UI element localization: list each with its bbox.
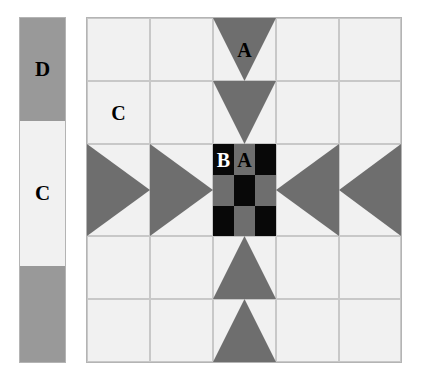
legend-label-c: C	[35, 183, 50, 204]
piece-label-a-center: A	[234, 144, 255, 175]
block-unit-r1c3-flying-geese-down: A	[213, 18, 276, 81]
nine-patch-cell-r3c3	[255, 206, 276, 236]
piece-label-b-center: B	[213, 144, 234, 175]
block-unit-r4c2-square	[150, 236, 213, 299]
block-unit-r1c2-square	[150, 18, 213, 81]
flying-geese-triangle-bottom-1	[213, 236, 276, 299]
block-unit-r5c3-flying-geese-up	[213, 299, 276, 362]
legend-swatch-c: C	[20, 121, 65, 266]
quilt-block: A C B	[86, 17, 402, 363]
block-unit-r5c5-corner-square	[339, 299, 401, 362]
nine-patch-cell-r3c1	[213, 206, 234, 236]
block-unit-r1c4-square	[276, 18, 339, 81]
nine-patch-cell-r1c1: B	[213, 144, 234, 175]
block-unit-r5c2-square	[150, 299, 213, 362]
block-unit-r2c2-square	[150, 81, 213, 144]
block-unit-r1c5-corner-square	[339, 18, 401, 81]
legend-label-d: D	[35, 59, 50, 80]
flying-geese-triangle-left-1	[87, 144, 150, 236]
block-unit-r3c5-flying-geese-left	[339, 144, 401, 236]
block-unit-r5c1-corner-square	[87, 299, 150, 362]
block-unit-r4c5-square	[339, 236, 401, 299]
legend-swatch-bottom	[20, 266, 65, 362]
legend-swatch-d: D	[20, 18, 65, 121]
flying-geese-triangle-right-2	[339, 144, 401, 236]
flying-geese-triangle-right-1	[276, 144, 339, 236]
block-unit-r2c4-square	[276, 81, 339, 144]
nine-patch-cell-r2c3	[255, 175, 276, 206]
quilt-block-grid: A C B	[87, 18, 401, 362]
block-unit-r3c1-flying-geese-right	[87, 144, 150, 236]
flying-geese-triangle-bottom-2	[213, 299, 276, 362]
nine-patch-cell-r2c2	[234, 175, 255, 206]
fabric-key-strip: D C	[19, 17, 66, 363]
piece-label-c-top-left: C	[87, 81, 150, 144]
nine-patch-cell-r2c1	[213, 175, 234, 206]
block-unit-r3c2-flying-geese-right	[150, 144, 213, 236]
block-unit-r2c3-flying-geese-down	[213, 81, 276, 144]
block-unit-r2c5-square	[339, 81, 401, 144]
block-unit-r2c1-square: C	[87, 81, 150, 144]
nine-patch-cell-r3c2	[234, 206, 255, 236]
flying-geese-triangle-top-1	[213, 18, 276, 81]
nine-patch-cell-r1c3	[255, 144, 276, 175]
diagram-canvas: D C A C	[0, 0, 421, 381]
block-unit-r1c1-corner-square	[87, 18, 150, 81]
block-unit-r5c4-square	[276, 299, 339, 362]
nine-patch-center: B A	[213, 144, 276, 236]
nine-patch-cell-r1c2: A	[234, 144, 255, 175]
flying-geese-triangle-left-2	[150, 144, 213, 236]
block-unit-r3c4-flying-geese-left	[276, 144, 339, 236]
flying-geese-triangle-top-2	[213, 81, 276, 144]
block-unit-r4c1-square	[87, 236, 150, 299]
block-unit-r4c4-square	[276, 236, 339, 299]
block-unit-r4c3-flying-geese-up	[213, 236, 276, 299]
